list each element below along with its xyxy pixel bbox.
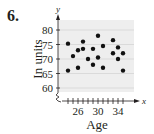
data-point bbox=[91, 63, 95, 67]
data-point bbox=[66, 41, 70, 45]
y-tick-label: 60 bbox=[42, 82, 54, 94]
data-point bbox=[96, 55, 100, 59]
x-tick-label: 30 bbox=[93, 105, 105, 117]
data-point bbox=[116, 57, 120, 61]
data-point bbox=[86, 57, 90, 61]
data-point bbox=[101, 66, 105, 70]
data-point bbox=[111, 51, 115, 55]
y-axis-arrow-icon bbox=[56, 14, 60, 20]
data-point bbox=[121, 68, 125, 72]
data-point bbox=[111, 38, 115, 42]
x-axis-arrow-icon bbox=[134, 99, 140, 103]
plot-background bbox=[58, 20, 134, 92]
data-point bbox=[81, 47, 85, 51]
data-point bbox=[96, 34, 100, 38]
data-point bbox=[76, 48, 80, 52]
data-point bbox=[121, 51, 125, 55]
y-tick-label: 80 bbox=[42, 24, 54, 36]
data-point bbox=[101, 44, 105, 48]
data-point bbox=[71, 54, 75, 58]
scatter-chart: y6065707580x263034AgeIn units bbox=[0, 0, 154, 134]
data-point bbox=[76, 66, 80, 70]
x-tick-label: 26 bbox=[73, 105, 85, 117]
data-point bbox=[81, 39, 85, 43]
data-point bbox=[66, 68, 70, 72]
axis-break-icon bbox=[56, 93, 61, 102]
y-axis-letter: y bbox=[55, 4, 60, 14]
x-tick-label: 34 bbox=[113, 105, 125, 117]
data-point bbox=[91, 47, 95, 51]
x-axis-letter: x bbox=[141, 96, 146, 106]
y-axis-title: In units bbox=[30, 39, 45, 78]
data-point bbox=[116, 45, 120, 49]
x-axis-title: Age bbox=[86, 117, 108, 132]
